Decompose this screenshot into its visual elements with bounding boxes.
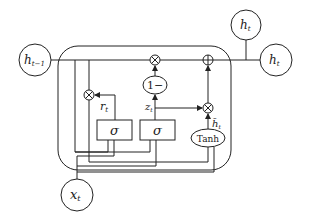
gru-diagram: σ σ 1− Tanh rt zt h̃t ht−1 ht ht xt: [0, 0, 311, 218]
multiply-reset-icon: [84, 90, 94, 100]
zt-label: zt: [144, 101, 153, 113]
xt-to-tanh-line: [77, 147, 214, 172]
tanh-label: Tanh: [197, 134, 219, 144]
one-minus-label: 1−: [147, 79, 163, 92]
rt-label: rt: [100, 100, 108, 114]
hprev-to-update-line: [75, 140, 150, 152]
htilde-label: h̃t: [212, 118, 221, 130]
multiply-top-icon: [150, 55, 160, 65]
multiply-candidate-icon: [203, 103, 213, 113]
add-icon: [203, 55, 213, 65]
sigma-update-label: σ: [153, 123, 163, 138]
sigma-reset-label: σ: [110, 123, 120, 138]
